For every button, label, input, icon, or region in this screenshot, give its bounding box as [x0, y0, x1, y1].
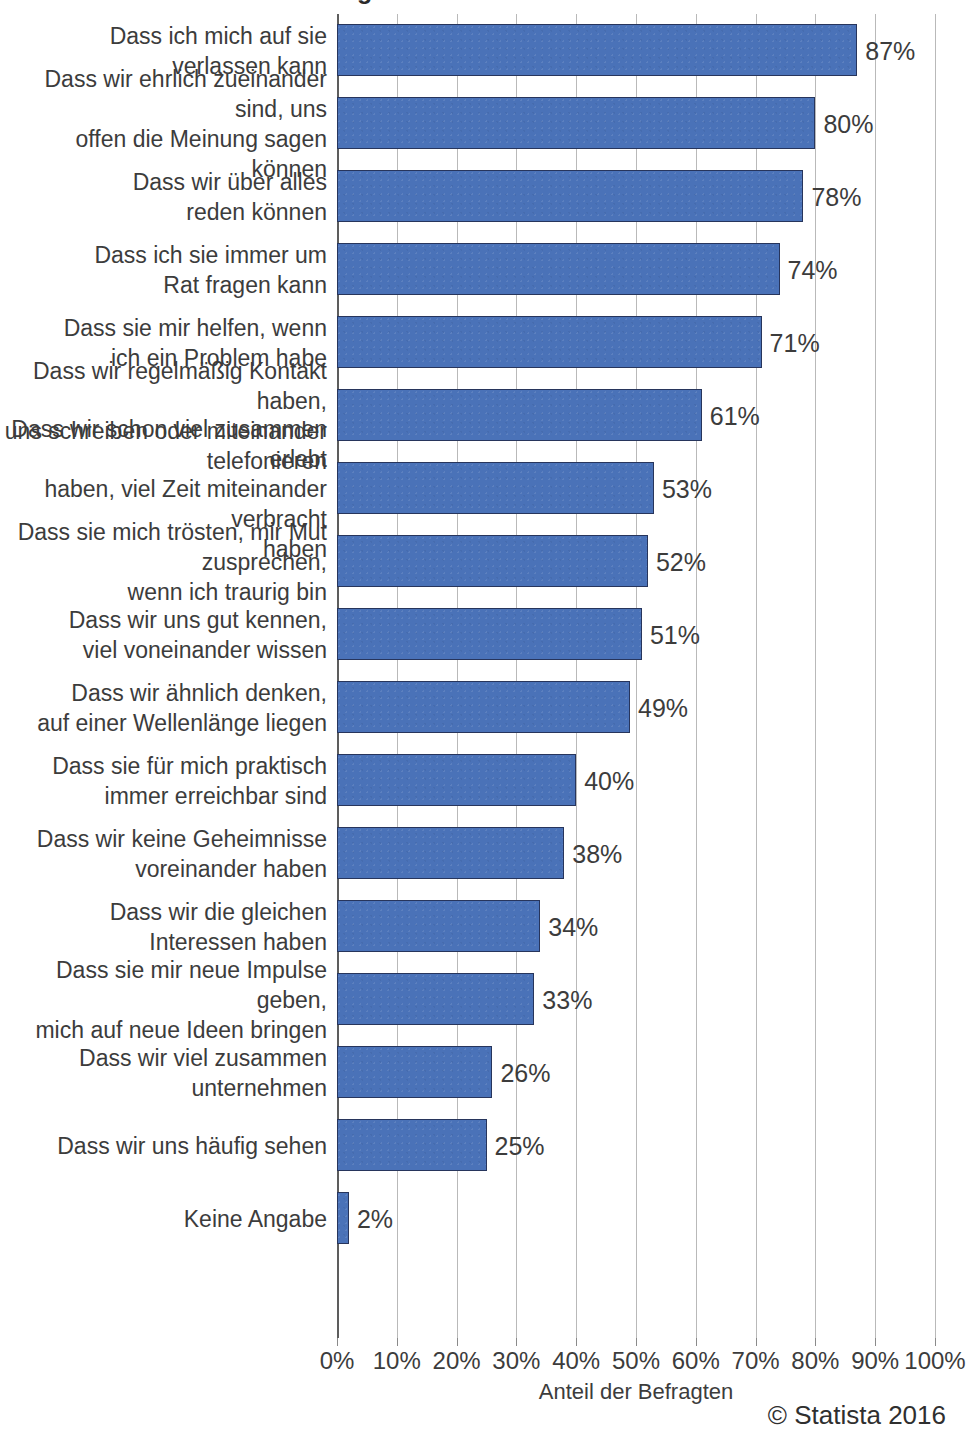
bar-value-label: 80%	[815, 109, 873, 138]
bar	[337, 535, 648, 587]
bar-row: 53%	[337, 452, 935, 525]
bar-row: 80%	[337, 87, 935, 160]
bar	[337, 827, 564, 879]
category-label: Keine Angabe	[0, 1182, 336, 1255]
category-label-text: Dass wir die gleichenInteressen haben	[110, 897, 336, 957]
tick-label: 80%	[791, 1347, 839, 1375]
bar-value-label: 49%	[630, 693, 688, 722]
tick-label: 20%	[433, 1347, 481, 1375]
bar-row: 52%	[337, 525, 935, 598]
bar-value-label: 33%	[534, 985, 592, 1014]
tick-label: 30%	[492, 1347, 540, 1375]
bar-row: 25%	[337, 1109, 935, 1182]
category-label: Dass wir über allesreden können	[0, 160, 336, 233]
tick-mark	[636, 1338, 637, 1346]
bar-row: 2%	[337, 1182, 935, 1255]
category-label-text: Dass wir über allesreden können	[133, 167, 336, 227]
category-label-text: Dass sie mir neue Impulse geben,mich auf…	[0, 955, 336, 1045]
bar-row: 51%	[337, 598, 935, 671]
tick-label: 10%	[373, 1347, 421, 1375]
category-label: Dass wir schon viel zusammen erlebthaben…	[0, 452, 336, 525]
category-label: Dass sie für mich praktischimmer erreich…	[0, 744, 336, 817]
bar-row: 33%	[337, 963, 935, 1036]
tick-mark	[756, 1338, 757, 1346]
category-label: Dass sie mich trösten, mir Mutzusprechen…	[0, 525, 336, 598]
bar	[337, 973, 534, 1025]
bar-value-label: 71%	[762, 328, 820, 357]
tick-label: 70%	[732, 1347, 780, 1375]
category-label-text: Dass wir uns häufig sehen	[57, 1131, 336, 1161]
category-label: Dass wir ähnlich denken,auf einer Wellen…	[0, 671, 336, 744]
category-label-text: Dass ich sie immer umRat fragen kann	[94, 240, 336, 300]
tick-mark	[576, 1338, 577, 1346]
bar-value-label: 52%	[648, 547, 706, 576]
tick-label: 90%	[851, 1347, 899, 1375]
bar	[337, 1046, 492, 1098]
x-axis: 0%10%20%30%40%50%60%70%80%90%100%	[337, 1338, 935, 1378]
category-label: Dass sie mir neue Impulse geben,mich auf…	[0, 963, 336, 1036]
category-label: Dass wir keine Geheimnissevoreinander ha…	[0, 817, 336, 890]
tick-label: 50%	[612, 1347, 660, 1375]
category-label: Dass wir viel zusammenunternehmen	[0, 1036, 336, 1109]
bar-value-label: 61%	[702, 401, 760, 430]
bar-value-label: 38%	[564, 839, 622, 868]
bar	[337, 24, 857, 76]
bar	[337, 1192, 349, 1244]
bar	[337, 243, 780, 295]
category-label-text: Dass sie für mich praktischimmer erreich…	[52, 751, 336, 811]
category-label-text: Dass wir ähnlich denken,auf einer Wellen…	[37, 678, 336, 738]
bar	[337, 1119, 487, 1171]
category-label: Dass wir ehrlich zueinander sind, unsoff…	[0, 87, 336, 160]
tick-mark	[397, 1338, 398, 1346]
category-label: Dass wir die gleichenInteressen haben	[0, 890, 336, 963]
plot-area: 87%80%78%74%71%61%53%52%51%49%40%38%34%3…	[337, 14, 935, 1338]
bar-row: 74%	[337, 233, 935, 306]
bar	[337, 900, 540, 952]
tick-mark	[516, 1338, 517, 1346]
tick-mark	[875, 1338, 876, 1346]
bar-value-label: 74%	[780, 255, 838, 284]
copyright-credit: © Statista 2016	[768, 1400, 946, 1431]
bar	[337, 170, 803, 222]
bar-row: 87%	[337, 14, 935, 87]
bar-value-label: 25%	[487, 1131, 545, 1160]
bar-value-label: 53%	[654, 474, 712, 503]
tick-label: 60%	[672, 1347, 720, 1375]
bar-row: 78%	[337, 160, 935, 233]
bar-row: 26%	[337, 1036, 935, 1109]
tick-label: 100%	[904, 1347, 965, 1375]
bar-value-label: 40%	[576, 766, 634, 795]
bar	[337, 608, 642, 660]
bar	[337, 462, 654, 514]
category-label-text: Dass wir keine Geheimnissevoreinander ha…	[37, 824, 336, 884]
bar-row: 49%	[337, 671, 935, 744]
category-label-text: Dass sie mich trösten, mir Mutzusprechen…	[18, 517, 336, 607]
bar-value-label: 34%	[540, 912, 598, 941]
bar	[337, 97, 815, 149]
horizontal-bar-chart: Dass ich mich auf sieverlassen kannDass …	[0, 0, 968, 1436]
category-label-text: Keine Angabe	[184, 1204, 336, 1234]
tick-label: 0%	[320, 1347, 355, 1375]
tick-mark	[935, 1338, 936, 1346]
bar-row: 71%	[337, 306, 935, 379]
category-label-text: Dass wir viel zusammenunternehmen	[79, 1043, 336, 1103]
bar-row: 61%	[337, 379, 935, 452]
tick-mark	[337, 1338, 338, 1346]
bar	[337, 681, 630, 733]
bar-row: 40%	[337, 744, 935, 817]
bar-value-label: 51%	[642, 620, 700, 649]
tick-mark	[696, 1338, 697, 1346]
tick-mark	[457, 1338, 458, 1346]
tick-label: 40%	[552, 1347, 600, 1375]
bar-value-label: 2%	[349, 1204, 393, 1233]
category-label-text: Dass wir uns gut kennen,viel voneinander…	[69, 605, 336, 665]
bar	[337, 316, 762, 368]
bar-row: 34%	[337, 890, 935, 963]
bar-row: 38%	[337, 817, 935, 890]
category-label: Dass wir uns gut kennen,viel voneinander…	[0, 598, 336, 671]
tick-mark	[815, 1338, 816, 1346]
category-label: Dass ich sie immer umRat fragen kann	[0, 233, 336, 306]
bar	[337, 754, 576, 806]
gridline-100	[935, 14, 936, 1338]
bar-value-label: 78%	[803, 182, 861, 211]
